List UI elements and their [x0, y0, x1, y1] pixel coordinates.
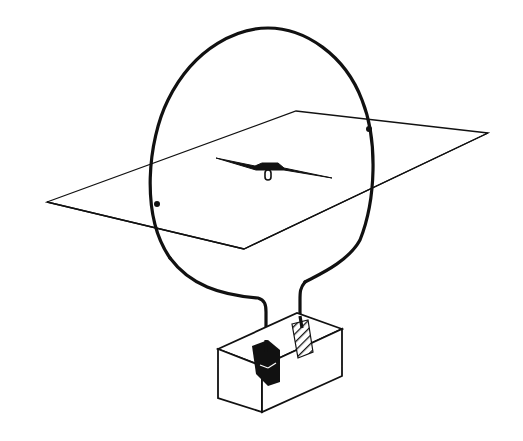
plane-front-edges — [47, 133, 488, 249]
compass-needle — [216, 158, 332, 180]
diagram-canvas — [0, 0, 523, 441]
needle-pivot-icon — [265, 170, 271, 180]
plane-intersection-dot-right — [366, 126, 372, 132]
battery-box — [218, 313, 342, 412]
diagram-svg — [0, 0, 523, 441]
plane-intersection-dot-left — [154, 201, 160, 207]
wire-loop — [150, 28, 373, 350]
